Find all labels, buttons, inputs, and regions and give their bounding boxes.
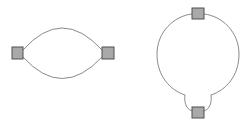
lens-diagram xyxy=(12,28,114,79)
diagram-canvas xyxy=(0,0,251,131)
loop-diagram xyxy=(157,8,239,118)
circle-loop-edge xyxy=(157,14,239,111)
bottom-arc-edge xyxy=(23,57,102,79)
bottom-node[interactable] xyxy=(192,107,204,118)
right-node[interactable] xyxy=(102,47,114,59)
top-node[interactable] xyxy=(192,8,204,19)
top-arc-edge xyxy=(23,28,102,50)
left-node[interactable] xyxy=(12,47,23,59)
